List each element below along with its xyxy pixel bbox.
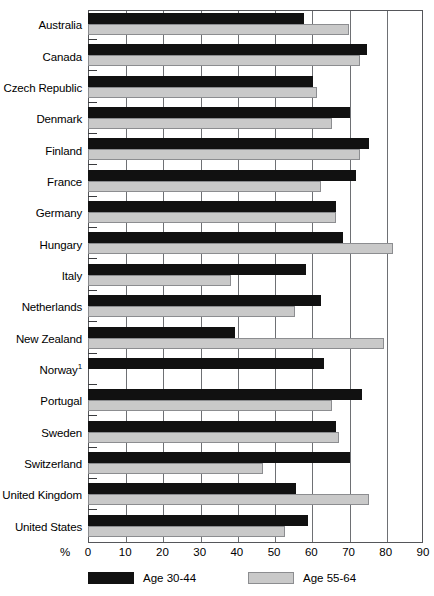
x-tick-label-50: 50: [259, 546, 289, 559]
category-labels: AustraliaCanadaCzech RepublicDenmarkFinl…: [0, 10, 82, 543]
bar-group: [88, 292, 423, 323]
axis-tick-mark: [88, 290, 97, 291]
bar-age-55-64: [88, 24, 349, 35]
x-tick-label-80: 80: [371, 546, 401, 559]
bar-group: [88, 10, 423, 41]
bar-age-30-44: [88, 107, 350, 118]
bar-age-30-44: [88, 358, 324, 369]
legend-swatch-icon-black: [88, 572, 134, 584]
axis-tick-mark: [88, 384, 97, 385]
bar-group: [88, 135, 423, 166]
axis-tick-mark: [88, 70, 97, 71]
bar-age-30-44: [88, 44, 367, 55]
axis-tick-mark: [88, 478, 97, 479]
bar-group: [88, 512, 423, 543]
bar-age-55-64: [88, 181, 321, 192]
axis-tick-mark: [88, 258, 97, 259]
legend: Age 30-44 Age 55-64: [0, 570, 434, 592]
bar-group: [88, 418, 423, 449]
bar-group: [88, 104, 423, 135]
footnote-marker: 1: [78, 362, 82, 371]
bar-age-30-44: [88, 170, 356, 181]
bar-chart: AustraliaCanadaCzech RepublicDenmarkFinl…: [0, 0, 434, 596]
legend-item-age-30-44[interactable]: Age 30-44: [88, 570, 196, 586]
x-tick-label-30: 30: [185, 546, 215, 559]
bar-group: [88, 386, 423, 417]
axis-tick-mark: [88, 39, 97, 40]
bar-age-55-64: [88, 463, 263, 474]
axis-tick-mark: [88, 227, 97, 228]
x-axis-unit-label: %: [60, 546, 70, 559]
bar-age-55-64: [88, 118, 332, 129]
bar-age-30-44: [88, 452, 350, 463]
bars-layer: [88, 10, 423, 543]
axis-tick-mark: [88, 353, 97, 354]
category-label-united-kingdom: United Kingdom: [0, 489, 82, 501]
legend-swatch-icon-gray: [248, 572, 294, 584]
x-tick-label-70: 70: [334, 546, 364, 559]
category-label-switzerland: Switzerland: [0, 458, 82, 470]
bar-age-55-64: [88, 494, 369, 505]
bar-age-30-44: [88, 389, 362, 400]
category-label-denmark: Denmark: [0, 113, 82, 125]
bar-group: [88, 449, 423, 480]
x-tick-label-10: 10: [110, 546, 140, 559]
category-label-norway: Norway1: [0, 364, 82, 376]
bar-group: [88, 229, 423, 260]
bar-age-55-64: [88, 338, 384, 349]
category-label-new-zealand: New Zealand: [0, 333, 82, 345]
bar-age-30-44: [88, 264, 306, 275]
bar-group: [88, 261, 423, 292]
category-label-sweden: Sweden: [0, 427, 82, 439]
category-label-netherlands: Netherlands: [0, 301, 82, 313]
bar-age-55-64: [88, 149, 360, 160]
axis-tick-mark: [88, 509, 97, 510]
axis-tick-mark: [88, 164, 97, 165]
axis-tick-mark: [88, 133, 97, 134]
x-tick-label-60: 60: [296, 546, 326, 559]
x-tick-label-20: 20: [147, 546, 177, 559]
bar-age-55-64: [88, 306, 295, 317]
legend-label-age-30-44: Age 30-44: [143, 572, 196, 585]
bar-age-30-44: [88, 201, 336, 212]
bar-age-30-44: [88, 421, 336, 432]
bar-group: [88, 73, 423, 104]
bar-age-30-44: [88, 232, 343, 243]
category-label-czech-republic: Czech Republic: [0, 82, 82, 94]
bar-age-55-64: [88, 55, 360, 66]
bar-age-55-64: [88, 432, 339, 443]
bar-age-30-44: [88, 76, 313, 87]
axis-tick-mark: [88, 321, 97, 322]
x-tick-label-90: 90: [408, 546, 434, 559]
x-tick-label-0: 0: [73, 546, 103, 559]
bar-age-55-64: [88, 275, 231, 286]
legend-label-age-55-64: Age 55-64: [303, 572, 356, 585]
category-label-united-states: United States: [0, 521, 82, 533]
axis-tick-mark: [88, 447, 97, 448]
category-label-finland: Finland: [0, 145, 82, 157]
bar-group: [88, 41, 423, 72]
bar-age-30-44: [88, 138, 369, 149]
axis-tick-mark: [88, 196, 97, 197]
bar-age-55-64: [88, 526, 285, 537]
bar-age-55-64: [88, 400, 332, 411]
axis-tick-mark: [88, 102, 97, 103]
category-label-australia: Australia: [0, 19, 82, 31]
bar-group: [88, 480, 423, 511]
bar-age-55-64: [88, 243, 393, 254]
bar-age-55-64: [88, 212, 336, 223]
bar-group: [88, 355, 423, 386]
bar-age-30-44: [88, 13, 304, 24]
bar-age-55-64: [88, 87, 317, 98]
category-label-italy: Italy: [0, 270, 82, 282]
bar-age-30-44: [88, 295, 321, 306]
x-axis: % 0102030405060708090: [0, 546, 434, 566]
x-tick-label-40: 40: [222, 546, 252, 559]
bar-group: [88, 324, 423, 355]
category-label-portugal: Portugal: [0, 395, 82, 407]
legend-item-age-55-64[interactable]: Age 55-64: [248, 570, 356, 586]
category-label-canada: Canada: [0, 51, 82, 63]
category-label-hungary: Hungary: [0, 239, 82, 251]
category-label-france: France: [0, 176, 82, 188]
bar-group: [88, 198, 423, 229]
